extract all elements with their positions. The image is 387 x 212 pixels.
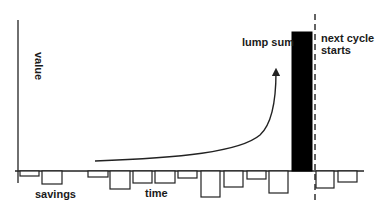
savings-bar <box>247 171 266 179</box>
y-axis-label: value <box>33 52 45 80</box>
lump-sum-bar <box>292 32 312 171</box>
savings-cycle-diagram: value savings time lump sum next cycle s… <box>0 0 387 212</box>
savings-bar <box>338 171 357 182</box>
savings-bar <box>20 171 39 176</box>
savings-bar <box>88 171 108 177</box>
growth-curve-arrow <box>95 72 276 161</box>
lump-sum-label: lump sum <box>242 36 294 48</box>
savings-bar <box>155 171 175 183</box>
savings-bar <box>133 171 152 183</box>
savings-label: savings <box>35 188 76 200</box>
savings-bar <box>110 171 130 189</box>
savings-bar <box>316 171 334 188</box>
next-cycle-label-line2: starts <box>321 44 351 56</box>
savings-bar <box>269 171 288 193</box>
savings-bar <box>178 171 197 178</box>
savings-bar <box>201 171 220 197</box>
next-cycle-label-line1: next cycle <box>321 32 374 44</box>
savings-bar <box>224 171 243 187</box>
time-label: time <box>145 187 168 199</box>
savings-bar <box>42 171 62 184</box>
